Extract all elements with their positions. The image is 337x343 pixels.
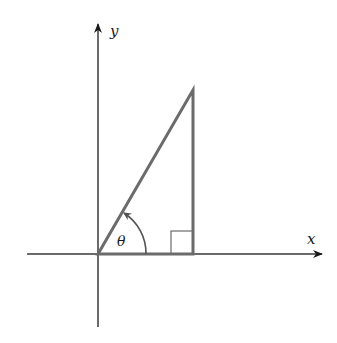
right-angle-marker: [171, 231, 193, 254]
angle-arc-icon: [124, 213, 146, 254]
x-axis-label: x: [307, 230, 316, 248]
y-axis-label: y: [109, 22, 119, 40]
angle-label: θ: [117, 233, 126, 249]
triangle-diagram: y x θ: [0, 0, 337, 343]
right-triangle: [98, 90, 193, 254]
